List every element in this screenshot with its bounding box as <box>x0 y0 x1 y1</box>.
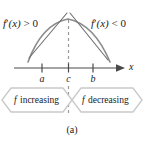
figure-caption: (a) <box>0 125 144 135</box>
banner-decreasing-text: decreasing <box>86 95 129 105</box>
derivative-right-relation: < 0 <box>109 17 126 29</box>
figure-increasing-decreasing: f′(x) > 0 f′(x) < 0 a c b x f increasing… <box>0 0 144 146</box>
tick-label-b: b <box>88 74 98 84</box>
derivative-label-right: f′(x) < 0 <box>91 18 126 29</box>
x-axis-label: x <box>129 62 133 72</box>
derivative-left-arg: (x) <box>8 17 20 29</box>
tick-label-c: c <box>64 74 74 84</box>
derivative-label-left: f′(x) > 0 <box>3 18 38 29</box>
x-axis-arrowhead <box>116 64 125 72</box>
banner-increasing-text: increasing <box>18 95 59 105</box>
tick-label-a: a <box>37 74 47 84</box>
banner-label-decreasing: f decreasing <box>82 96 129 106</box>
derivative-right-arg: (x) <box>96 17 108 29</box>
banner-label-increasing: f increasing <box>14 96 59 106</box>
derivative-left-relation: > 0 <box>21 17 38 29</box>
